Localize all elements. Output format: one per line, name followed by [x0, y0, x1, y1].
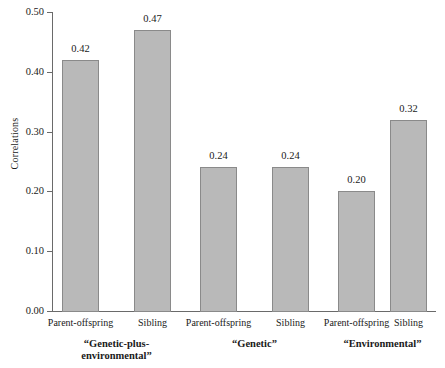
y-tick-label: 0.20 — [26, 186, 44, 197]
bar-value-label: 0.20 — [347, 175, 365, 186]
y-tick-mark — [47, 72, 52, 73]
bar — [134, 30, 171, 312]
y-tick-label: 0.30 — [26, 126, 44, 137]
x-category-label: Sibling — [276, 318, 305, 328]
y-tick-label: 0.40 — [26, 67, 44, 78]
plot-area: 0.000.100.200.300.400.50 0.420.470.240.2… — [52, 12, 435, 311]
y-tick-mark — [47, 132, 52, 133]
y-axis-title: Correlations — [9, 94, 20, 194]
bar-value-label: 0.24 — [281, 151, 299, 162]
x-axis-line — [52, 311, 436, 312]
bar-value-label: 0.47 — [143, 14, 161, 25]
y-tick-mark — [47, 12, 52, 13]
y-tick-label: 0.10 — [26, 246, 44, 257]
x-category-label: Parent-offspring — [48, 318, 113, 328]
bar — [272, 167, 309, 312]
bar-chart-figure: Correlations 0.000.100.200.300.400.50 0.… — [0, 0, 445, 368]
bar — [390, 120, 427, 312]
y-axis-line — [52, 12, 53, 312]
y-tick-label: 0.50 — [26, 7, 44, 18]
x-category-label: Parent-offspring — [324, 318, 389, 328]
y-tick-mark — [47, 251, 52, 252]
y-tick-mark — [47, 311, 52, 312]
bar-value-label: 0.24 — [209, 151, 227, 162]
x-category-label: Sibling — [138, 318, 167, 328]
x-group-label: “Genetic” — [232, 338, 277, 350]
x-group-label: “Environmental” — [344, 338, 422, 350]
x-category-label: Parent-offspring — [186, 318, 251, 328]
bar — [200, 167, 237, 312]
bar-value-label: 0.42 — [71, 44, 89, 55]
x-category-label: Sibling — [394, 318, 423, 328]
bar — [62, 60, 99, 312]
y-tick-mark — [47, 191, 52, 192]
y-tick-label: 0.00 — [26, 306, 44, 317]
bar-value-label: 0.32 — [399, 104, 417, 115]
bar — [338, 191, 375, 312]
x-group-label: “Genetic-plus- environmental” — [81, 338, 151, 362]
